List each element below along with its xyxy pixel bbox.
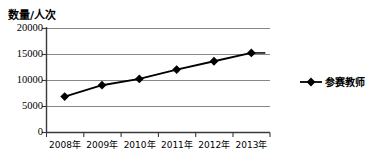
line-chart: 数量/人次 <box>0 0 374 167</box>
chart-legend: 参赛教师 <box>300 74 365 89</box>
x-tick-2011: 2011年 <box>158 141 196 150</box>
x-tick-2013: 2013年 <box>233 141 271 150</box>
x-tick-2012: 2012年 <box>195 141 233 150</box>
legend-label-canshaijiaoshi: 参赛教师 <box>325 74 365 89</box>
x-tick-2008: 2008年 <box>46 141 84 150</box>
data-point-2012 <box>210 57 219 66</box>
series-line <box>65 53 252 97</box>
gridlines <box>46 29 270 107</box>
legend-marker-icon <box>300 76 322 88</box>
data-point-2011 <box>172 65 181 74</box>
data-point-2009 <box>98 81 107 90</box>
data-point-2010 <box>135 75 144 84</box>
data-point-2013 <box>247 49 256 58</box>
x-tick-2010: 2010年 <box>121 141 159 150</box>
data-point-2008 <box>60 92 69 101</box>
x-tick-2009: 2009年 <box>83 141 121 150</box>
